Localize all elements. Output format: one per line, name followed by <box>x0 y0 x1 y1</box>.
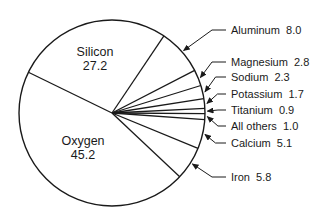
slice-label-magnesium: Magnesium 2.8 <box>231 56 309 68</box>
slice-label-iron: Iron 5.8 <box>231 171 271 183</box>
slice-label-aluminum: Aluminum 8.0 <box>231 24 301 36</box>
leader-arrow-titanium <box>207 110 226 111</box>
slice-label-oxygen: Oxygen <box>61 134 104 148</box>
leader-arrow-calcium <box>205 134 226 143</box>
leader-arrow-all-others <box>207 117 226 126</box>
slice-label-all-others: All others 1.0 <box>231 120 298 132</box>
leader-arrow-iron <box>192 164 226 177</box>
slice-label-titanium: Titanium 0.9 <box>231 104 294 116</box>
slice-label-sodium: Sodium 2.3 <box>231 71 290 83</box>
leader-arrow-sodium <box>205 77 226 92</box>
leader-arrow-potassium <box>207 94 226 103</box>
leader-arrow-magnesium <box>201 62 226 77</box>
slice-value-oxygen: 45.2 <box>71 148 95 162</box>
slice-label-silicon: Silicon <box>77 45 114 59</box>
leader-arrow-aluminum <box>184 30 226 50</box>
pie-chart: Silicon27.2Aluminum 8.0Magnesium 2.8Sodi… <box>0 0 335 218</box>
slice-label-calcium: Calcium 5.1 <box>231 137 292 149</box>
slice-label-potassium: Potassium 1.7 <box>231 88 304 100</box>
slice-value-silicon: 27.2 <box>83 59 107 73</box>
